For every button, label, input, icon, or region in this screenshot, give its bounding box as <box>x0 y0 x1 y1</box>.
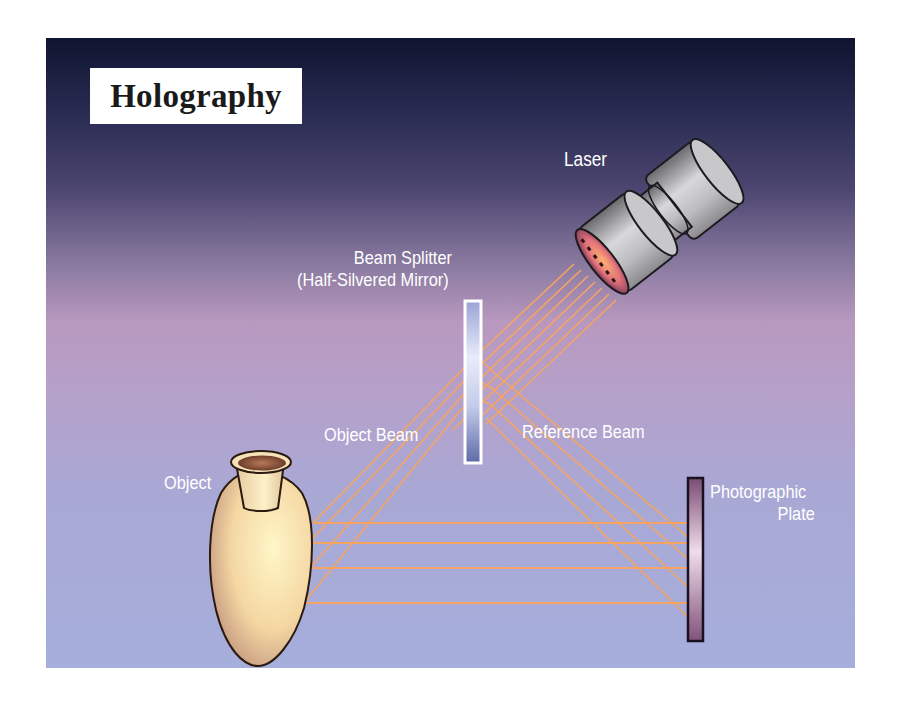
laser-label: Laser <box>564 148 607 170</box>
holography-diagram <box>46 38 855 668</box>
object-beam-label: Object Beam <box>324 424 418 446</box>
reference-beam-label: Reference Beam <box>522 421 645 443</box>
photographic-plate <box>688 478 703 641</box>
diagram-title: Holography <box>110 78 282 115</box>
beam-splitter-label-line1: Beam Splitter <box>304 247 502 269</box>
beam-splitter-label-line2: (Half-Silvered Mirror) <box>274 269 472 291</box>
beam-splitter-label: Beam Splitter (Half-Silvered Mirror) <box>274 247 504 291</box>
photographic-plate-label: Photographic Plate <box>710 481 822 525</box>
vase-object <box>210 451 312 666</box>
diagram-panel: Holography Laser Beam Splitter (Half-Sil… <box>46 38 855 668</box>
beam-splitter <box>465 301 481 463</box>
object-label: Object <box>164 472 211 494</box>
reference-beam-lines <box>464 356 689 618</box>
photographic-plate-label-line1: Photographic <box>710 481 806 503</box>
photographic-plate-label-line2: Plate <box>748 503 844 525</box>
object-beam-lines <box>304 356 476 603</box>
title-box: Holography <box>90 68 302 124</box>
